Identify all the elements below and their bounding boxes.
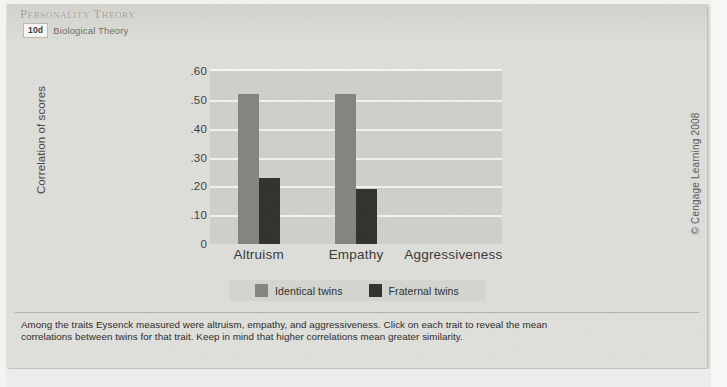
- legend-item: Identical twins: [255, 284, 342, 297]
- y-axis-tick-label: .50: [190, 94, 207, 106]
- y-axis-tick-label: .60: [190, 65, 207, 77]
- bar-group[interactable]: [210, 71, 307, 244]
- bar[interactable]: [356, 189, 377, 244]
- legend-item: Fraternal twins: [369, 284, 459, 297]
- bar[interactable]: [259, 178, 280, 244]
- breadcrumb: 10d Biological Theory: [23, 23, 129, 38]
- module-number-badge: 10d: [23, 23, 48, 38]
- y-axis-tick-label: .40: [190, 123, 207, 135]
- bar-group[interactable]: [405, 71, 502, 244]
- y-axis-tick-label: .30: [190, 152, 207, 164]
- x-axis-labels: AltruismEmpathyAggressiveness: [197, 247, 517, 269]
- app-header: Personality Theory 10d Biological Theory: [7, 4, 707, 40]
- caption-bar: Among the traits Eysenck measured were a…: [7, 313, 707, 368]
- chart-legend: Identical twinsFraternal twins: [229, 280, 485, 301]
- y-axis-title: Correlation of scores: [35, 50, 47, 230]
- legend-label: Identical twins: [275, 285, 342, 297]
- x-axis-label[interactable]: Aggressiveness: [404, 247, 502, 262]
- x-axis-label[interactable]: Altruism: [233, 247, 283, 262]
- app-window: Personality Theory 10d Biological Theory…: [7, 4, 707, 368]
- bar[interactable]: [238, 94, 259, 244]
- legend-swatch: [255, 284, 268, 297]
- bar[interactable]: [335, 94, 356, 244]
- module-title: Biological Theory: [53, 25, 128, 36]
- x-axis-label[interactable]: Empathy: [329, 247, 384, 262]
- page-title: Personality Theory: [20, 7, 135, 22]
- legend-label: Fraternal twins: [389, 285, 459, 297]
- plot-area: [210, 71, 502, 244]
- caption-text: Among the traits Eysenck measured were a…: [21, 319, 561, 344]
- y-axis-ticks: .60.50.40.30.20.100: [185, 59, 211, 244]
- y-axis-tick-label: .10: [190, 209, 207, 221]
- legend-swatch: [369, 284, 382, 297]
- y-axis-tick-label: .20: [190, 180, 207, 192]
- bar-group[interactable]: [307, 71, 404, 244]
- scanned-page: Personality Theory 10d Biological Theory…: [0, 0, 727, 387]
- bar-chart: Correlation of scores .60.50.40.30.20.10…: [7, 40, 707, 312]
- copyright-notice: © Cengage Learning 2008: [690, 94, 701, 254]
